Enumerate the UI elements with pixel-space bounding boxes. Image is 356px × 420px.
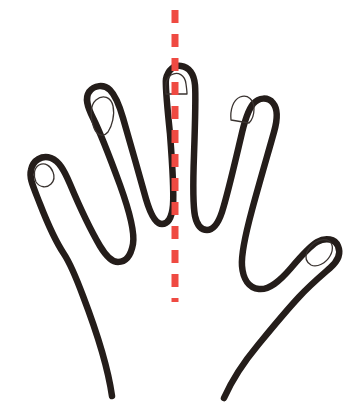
hand-drawing-canvas [0, 0, 356, 420]
hand-symmetry-figure: Hand outline with vertical line of symme… [0, 0, 356, 420]
